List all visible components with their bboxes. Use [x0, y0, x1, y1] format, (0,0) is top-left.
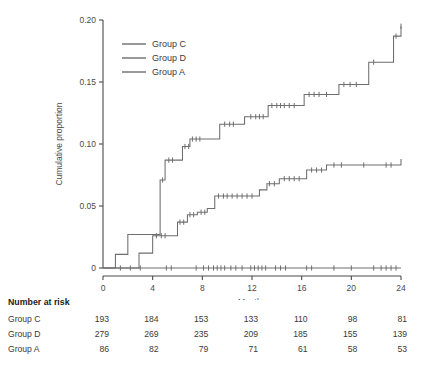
x-tick-label: 20: [347, 283, 357, 293]
risk-value: 133: [224, 314, 258, 324]
risk-value: 209: [224, 329, 258, 339]
x-tick-label: 8: [200, 283, 205, 293]
legend-label-group-d: Group D: [152, 53, 187, 63]
y-axis-title: Cumulative proportion: [54, 102, 64, 185]
x-tick-label: 16: [297, 283, 307, 293]
risk-value: 58: [323, 344, 357, 354]
legend-label-group-c: Group C: [152, 39, 187, 49]
risk-value: 193: [75, 314, 109, 324]
curve-group-d: [103, 159, 401, 268]
risk-value: 139: [373, 329, 407, 339]
risk-row-label: Group D: [8, 329, 40, 339]
risk-value: 53: [373, 344, 407, 354]
y-tick-label: 0: [91, 263, 96, 273]
y-tick-label: 0.15: [79, 77, 96, 87]
x-axis-title: Months: [238, 297, 266, 300]
cumulative-proportion-chart: 00.050.100.150.2004812162024MonthsCumula…: [0, 0, 423, 300]
x-tick-label: 24: [396, 283, 406, 293]
curve-group-c: [103, 26, 401, 268]
risk-value: 279: [75, 329, 109, 339]
risk-value: 235: [174, 329, 208, 339]
table-row: Group C 193 184 153 133 110 98 81: [0, 314, 423, 329]
risk-value: 184: [125, 314, 159, 324]
risk-value: 81: [373, 314, 407, 324]
x-tick-label: 12: [247, 283, 257, 293]
risk-value: 269: [125, 329, 159, 339]
y-tick-label: 0.10: [79, 139, 96, 149]
risk-value: 86: [75, 344, 109, 354]
risk-value: 155: [323, 329, 357, 339]
risk-value: 98: [323, 314, 357, 324]
risk-value: 110: [274, 314, 308, 324]
y-tick-label: 0.20: [79, 15, 96, 25]
table-row: Group D 279 269 235 209 185 155 139: [0, 329, 423, 344]
risk-value: 153: [174, 314, 208, 324]
risk-value: 61: [274, 344, 308, 354]
risk-table-title: Number at risk: [8, 297, 70, 307]
risk-value: 71: [224, 344, 258, 354]
x-tick-label: 0: [101, 283, 106, 293]
table-row: Group A 86 82 79 71 61 58 53: [0, 344, 423, 359]
risk-row-label: Group A: [8, 344, 40, 354]
x-tick-label: 4: [150, 283, 155, 293]
risk-value: 185: [274, 329, 308, 339]
risk-row-label: Group C: [8, 314, 40, 324]
legend-label-group-a: Group A: [152, 67, 185, 77]
y-tick-label: 0.05: [79, 201, 96, 211]
risk-value: 79: [174, 344, 208, 354]
risk-value: 82: [125, 344, 159, 354]
